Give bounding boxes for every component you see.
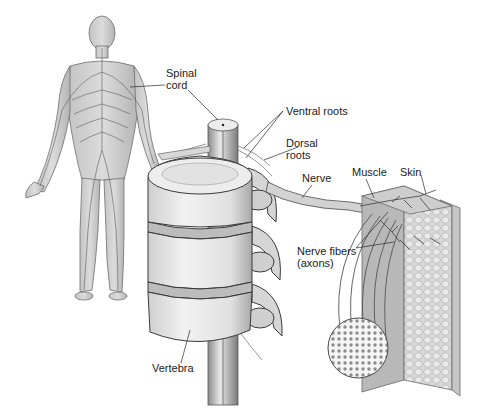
label-spinal-cord-line2: cord bbox=[166, 79, 197, 91]
vertebral-column bbox=[148, 156, 282, 342]
label-skin: Skin bbox=[400, 166, 421, 178]
label-nerve-fibers: Nerve fibers (axons) bbox=[297, 245, 356, 269]
anatomy-diagram: Spinal cord Ventral roots Dorsal roots N… bbox=[0, 0, 492, 409]
label-dorsal-roots: Dorsal roots bbox=[286, 137, 318, 161]
label-dorsal-roots-line2: roots bbox=[286, 149, 318, 161]
label-spinal-cord: Spinal cord bbox=[166, 67, 197, 91]
label-ventral-roots: Ventral roots bbox=[286, 105, 348, 117]
illustration bbox=[0, 0, 492, 409]
label-nerve: Nerve bbox=[302, 172, 331, 184]
label-dorsal-roots-line1: Dorsal bbox=[286, 137, 318, 149]
label-vertebra: Vertebra bbox=[152, 362, 194, 374]
nerve-cross-section bbox=[328, 318, 388, 378]
label-muscle: Muscle bbox=[352, 166, 387, 178]
label-nerve-fibers-line2: (axons) bbox=[297, 257, 356, 269]
human-figure bbox=[26, 16, 160, 300]
label-spinal-cord-line1: Spinal bbox=[166, 67, 197, 79]
label-nerve-fibers-line1: Nerve fibers bbox=[297, 245, 356, 257]
